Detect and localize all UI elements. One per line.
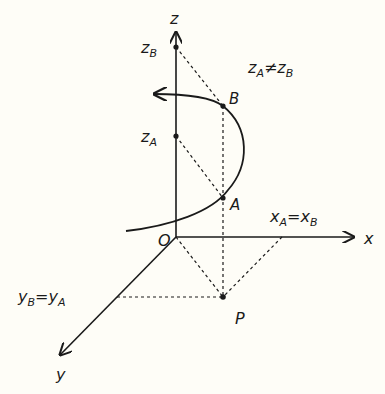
point-B-label: B [229,90,239,108]
diagram-canvas: z x y O B A P zB zA zA≠zB xA=xB yB=yA [0,0,385,394]
point-A-dot [220,195,225,200]
origin-label: O [158,231,171,250]
coordinate-diagram: z x y O B A P zB zA zA≠zB xA=xB yB=yA [0,0,385,394]
y-axis-label: y [55,365,66,384]
point-A-label: A [229,196,240,214]
y-equality-label: yB=yA [17,287,65,309]
x-equality-label: xA=xB [269,207,317,229]
z-axis-label: z [169,9,179,28]
dashed-x-axis-to-P [223,237,282,297]
curve [126,94,244,231]
dashed-zA-to-A [176,136,223,198]
point-B-dot [220,103,225,108]
zA-dot [173,133,178,138]
zA-label: zA [140,127,157,149]
y-axis [60,237,176,355]
zB-label: zB [140,38,157,60]
z-inequality-label: zA≠zB [247,58,293,80]
zB-dot [173,44,178,49]
point-P-dot [220,294,226,300]
point-P-label: P [235,309,245,328]
dashed-origin-to-P [176,237,223,297]
x-axis-label: x [363,229,374,248]
